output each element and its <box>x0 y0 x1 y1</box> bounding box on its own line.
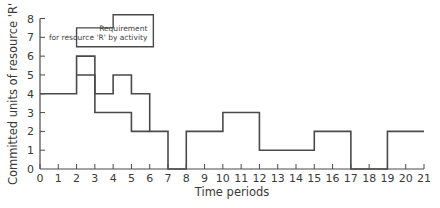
x-tick-label: 10 <box>216 172 230 185</box>
x-tick-label: 15 <box>307 172 321 185</box>
y-tick-label: 1 <box>27 144 34 157</box>
x-tick-label: 7 <box>165 172 172 185</box>
x-tick-label: 2 <box>73 172 80 185</box>
x-tick-label: 16 <box>326 172 340 185</box>
x-tick-label: 3 <box>91 172 98 185</box>
resource-step-chart: 0123456789101112131415161718192021012345… <box>0 0 440 208</box>
x-tick-label: 4 <box>110 172 117 185</box>
x-tick-label: 8 <box>183 172 190 185</box>
y-tick-label: 3 <box>27 107 34 120</box>
y-tick-label: 4 <box>27 88 34 101</box>
legend-line-1: Requirement <box>99 24 147 33</box>
x-tick-label: 0 <box>37 172 44 185</box>
legend: Requirementfor resource 'R' by activity <box>49 15 153 47</box>
x-tick-label: 6 <box>146 172 153 185</box>
x-tick-label: 17 <box>344 172 358 185</box>
x-axis-title: Time periods <box>194 185 269 199</box>
x-tick-label: 21 <box>417 172 431 185</box>
x-tick-label: 14 <box>289 172 303 185</box>
y-axis-title: Committed units of resource 'R' <box>6 3 20 185</box>
x-tick-label: 5 <box>128 172 135 185</box>
x-tick-label: 12 <box>252 172 266 185</box>
x-tick-label: 9 <box>201 172 208 185</box>
x-tick-label: 19 <box>380 172 394 185</box>
x-tick-label: 1 <box>55 172 62 185</box>
y-tick-label: 5 <box>27 69 34 82</box>
x-tick-label: 13 <box>271 172 285 185</box>
y-tick-label: 8 <box>27 13 34 26</box>
x-tick-label: 18 <box>362 172 376 185</box>
y-tick-label: 2 <box>27 125 34 138</box>
y-tick-label: 0 <box>27 163 34 176</box>
y-tick-label: 6 <box>27 50 34 63</box>
series-lines <box>40 56 424 169</box>
y-tick-label: 7 <box>27 31 34 44</box>
x-tick-label: 20 <box>399 172 413 185</box>
legend-line-2: for resource 'R' by activity <box>49 33 148 42</box>
x-tick-label: 11 <box>234 172 248 185</box>
